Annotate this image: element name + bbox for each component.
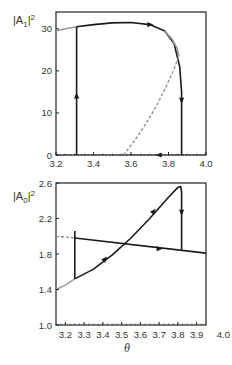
series-line	[75, 238, 206, 253]
top-plot-frame	[56, 12, 206, 155]
top-arrows-group	[74, 22, 184, 158]
figure: 3.23.43.63.84.0 0102030 |A1|2 3.23.33.43…	[0, 0, 232, 365]
series-line	[56, 27, 77, 31]
y-tick-label: 10	[41, 107, 52, 118]
arrow-marker-icon	[156, 152, 162, 157]
bottom-series-group	[56, 187, 206, 290]
y-tick-label: 2.6	[39, 178, 52, 189]
y-tick-label: 30	[41, 23, 52, 34]
x-tick-label: 3.5	[115, 329, 128, 340]
y-tick-label: 1.4	[39, 284, 52, 295]
bottom-x-axis-label: θ	[124, 341, 130, 355]
bottom-y-axis-label: |A0|2	[13, 189, 36, 205]
top-panel: 3.23.43.63.84.0 0102030 |A1|2	[13, 12, 213, 169]
x-tick-label: 3.9	[190, 329, 203, 340]
series-line	[75, 187, 182, 279]
arrow-marker-icon	[179, 210, 184, 216]
series-line	[77, 23, 182, 156]
arrow-marker-icon	[157, 246, 163, 251]
y-tick-label: 1.8	[39, 249, 52, 260]
arrow-marker-icon	[179, 98, 184, 104]
x-tick-label: 4.0	[217, 329, 230, 340]
y-tick-label: 20	[41, 65, 52, 76]
series-line	[56, 279, 75, 290]
top-series-group	[56, 23, 206, 156]
y-tick-label: 2.2	[39, 213, 52, 224]
bottom-panel: 3.23.33.43.53.63.73.83.94.0 1.01.41.82.2…	[13, 178, 230, 356]
x-tick-label: 3.4	[87, 158, 100, 169]
y-tick-label: 1.0	[39, 320, 52, 331]
x-tick-label: 3.8	[171, 329, 184, 340]
x-tick-label: 3.4	[96, 329, 109, 340]
series-line	[56, 236, 75, 238]
x-tick-label: 3.7	[153, 329, 166, 340]
x-tick-label: 3.8	[162, 158, 175, 169]
y-tick-label: 0	[47, 150, 52, 161]
arrow-marker-icon	[74, 93, 79, 99]
bottom-plot-frame	[56, 183, 206, 325]
series-line	[124, 56, 179, 155]
x-tick-label: 3.2	[59, 329, 72, 340]
x-tick-label: 3.6	[134, 329, 147, 340]
x-tick-label: 4.0	[199, 158, 212, 169]
x-tick-label: 3.6	[124, 158, 137, 169]
x-tick-label: 3.3	[78, 329, 91, 340]
top-y-axis-label: |A1|2	[13, 13, 36, 29]
